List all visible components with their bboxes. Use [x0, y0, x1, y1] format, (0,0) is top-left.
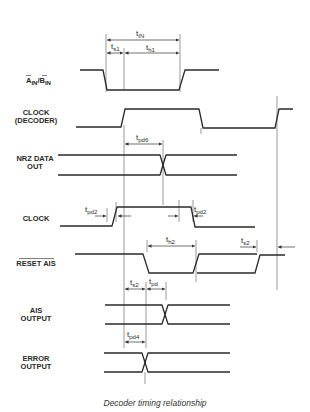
svg-text:tpd2: tpd2 [85, 205, 98, 215]
dimension-t-h1: th1 [125, 43, 179, 53]
dimension-t-s2-ais: ts2 [125, 278, 145, 289]
svg-text:tpd2: tpd2 [194, 205, 207, 215]
signal-label-clock-decoder-2: (DECODER) [15, 116, 58, 125]
dimension-t-pd6: tpd6 [125, 133, 162, 144]
signal-clock: CLOCK [23, 207, 255, 227]
svg-text:ts2: ts2 [241, 236, 250, 246]
signal-label-reset-ais: RESET AIS [16, 259, 55, 268]
signal-ain-bin: AIN/BIN [26, 70, 219, 90]
signal-label-clock: CLOCK [23, 214, 50, 223]
signal-clock-decoder: CLOCK (DECODER) [15, 108, 293, 128]
signal-nrz-data-out: NRZ DATA OUT [16, 154, 237, 175]
svg-text:tpd6: tpd6 [136, 133, 149, 143]
signal-error-output: ERROR OUTPUT [21, 353, 230, 372]
figure-caption: Decoder timing relationship [104, 398, 207, 408]
signal-label-error-2: OUTPUT [21, 362, 52, 371]
svg-text:tpd4: tpd4 [127, 330, 140, 340]
dimension-t-h2: th2 [148, 235, 195, 246]
svg-text:ts1: ts1 [111, 42, 120, 52]
dimension-t-in: tIN [107, 29, 179, 40]
svg-text:tpd: tpd [149, 277, 158, 287]
signal-ais-output: AIS OUTPUT [21, 305, 230, 324]
signal-label-ais-2: OUTPUT [21, 314, 52, 323]
dimension-t-pd: tpd [147, 277, 165, 289]
dimension-t-s2-reset: ts2 [240, 236, 295, 247]
svg-text:th2: th2 [166, 235, 176, 245]
decoder-timing-diagram: AIN/BIN tIN ts1 th1 CLOCK (DECODER) tpd6… [0, 0, 310, 412]
dimension-t-s1: ts1 [107, 42, 123, 53]
svg-text:ts2: ts2 [130, 278, 139, 288]
svg-text:th1: th1 [146, 43, 156, 53]
svg-text:tIN: tIN [136, 29, 144, 39]
signal-label-nrz-2: OUT [27, 162, 43, 171]
signal-reset-ais: RESET AIS [16, 254, 285, 273]
dimension-t-pd4: tpd4 [125, 330, 145, 342]
signal-label-ain-bin: AIN/BIN [26, 76, 51, 86]
